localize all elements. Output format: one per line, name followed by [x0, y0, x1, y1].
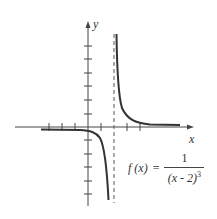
x-axis-label: x: [189, 133, 194, 145]
y-axis-label: y: [93, 18, 98, 30]
x-axis-arrow-icon: [187, 125, 194, 130]
equals-sign: =: [153, 161, 160, 176]
function-name: f (x): [128, 161, 148, 176]
fraction: 1 (x - 2)3: [164, 151, 204, 186]
denominator-exponent: 3: [197, 170, 201, 179]
denominator-base: (x - 2): [168, 171, 197, 185]
denominator: (x - 2)3: [168, 168, 201, 186]
numerator: 1: [181, 151, 187, 167]
curve-left-branch: [41, 130, 109, 201]
function-formula: f (x) = 1 (x - 2)3: [128, 151, 204, 186]
curve-right-branch: [117, 34, 181, 125]
y-axis: [84, 21, 92, 206]
graph-canvas: [0, 0, 217, 219]
y-axis-arrow-icon: [86, 21, 91, 28]
